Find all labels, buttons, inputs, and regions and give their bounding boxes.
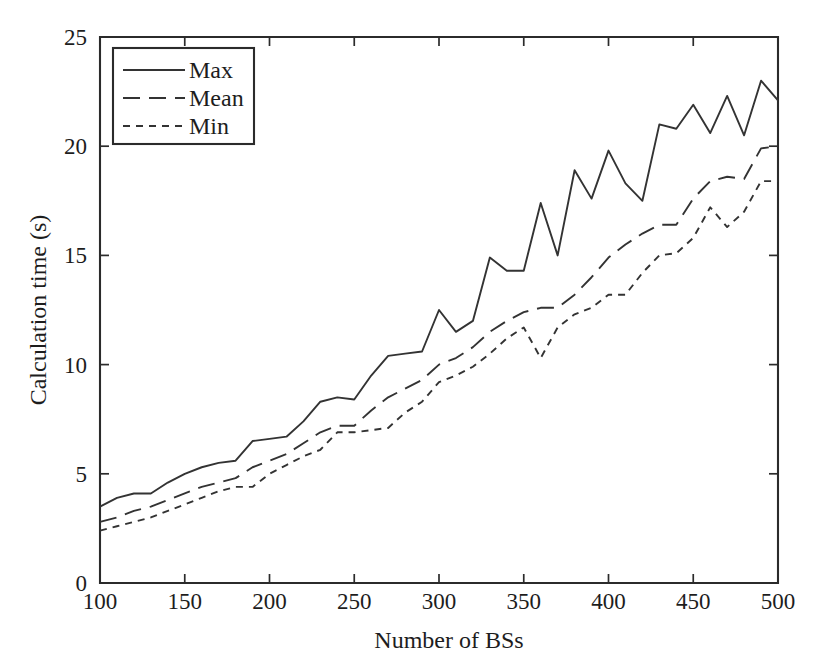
x-tick-labels: 100150200250300350400450500 bbox=[83, 589, 796, 614]
x-tick-label: 350 bbox=[507, 589, 542, 614]
x-tick-label: 150 bbox=[168, 589, 203, 614]
x-tick-label: 200 bbox=[252, 589, 287, 614]
x-tick-label: 500 bbox=[761, 589, 796, 614]
x-tick-label: 100 bbox=[83, 589, 118, 614]
x-tick-label: 250 bbox=[337, 589, 372, 614]
y-tick-label: 25 bbox=[64, 25, 87, 50]
y-tick-label: 15 bbox=[64, 243, 87, 268]
y-tick-label: 5 bbox=[76, 462, 88, 487]
x-tick-label: 300 bbox=[422, 589, 457, 614]
data-series bbox=[100, 81, 778, 531]
series-line-mean bbox=[100, 146, 778, 522]
calculation-time-line-chart: 100150200250300350400450500 0510152025 N… bbox=[0, 0, 829, 668]
y-tick-labels: 0510152025 bbox=[64, 25, 87, 596]
legend-label-max: Max bbox=[189, 57, 233, 83]
y-tick-label: 10 bbox=[64, 353, 87, 378]
chart-page: 100150200250300350400450500 0510152025 N… bbox=[0, 0, 829, 668]
y-tick-label: 20 bbox=[64, 134, 87, 159]
x-axis-title: Number of BSs bbox=[374, 627, 523, 653]
legend-label-mean: Mean bbox=[189, 85, 244, 111]
y-axis-title: Calculation time (s) bbox=[25, 215, 51, 406]
series-line-min bbox=[100, 181, 778, 530]
y-tick-label: 0 bbox=[76, 571, 88, 596]
chart-legend: MaxMeanMin bbox=[113, 48, 254, 144]
x-tick-label: 400 bbox=[591, 589, 626, 614]
x-tick-label: 450 bbox=[676, 589, 711, 614]
legend-label-min: Min bbox=[189, 113, 229, 139]
